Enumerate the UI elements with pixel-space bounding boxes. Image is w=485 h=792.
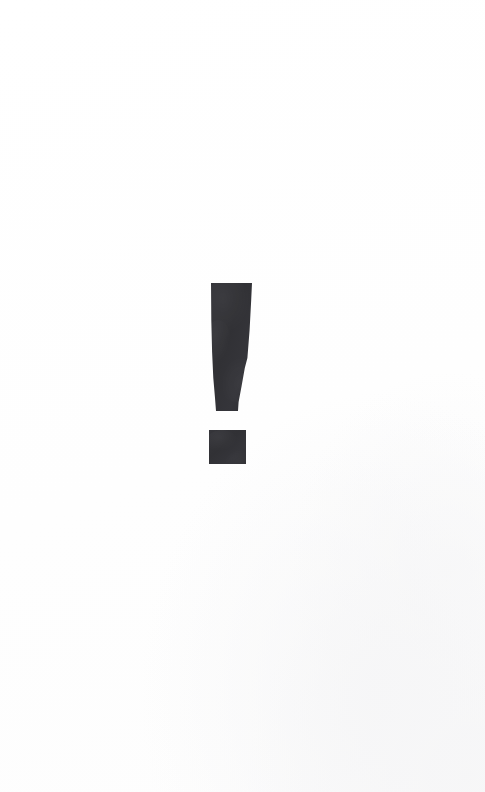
exclamation-mark-glyph: [0, 0, 485, 792]
paper-texture-overlay: [0, 0, 485, 792]
exclamation-dot-shape: [206, 430, 250, 468]
exclamation-stem-shape: [202, 278, 258, 411]
artwork-canvas: ! Exclamation Mark A single oversized ex…: [0, 0, 485, 792]
